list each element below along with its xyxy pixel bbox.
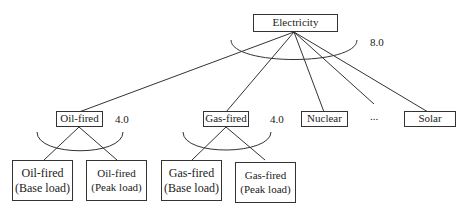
elasticity-root: 8.0	[370, 36, 384, 48]
leaf-gas-base: Gas-fired (Base load)	[161, 160, 222, 201]
leaf-line2: (Base load)	[15, 181, 70, 196]
leaf-oil-base: Oil-fired (Base load)	[12, 160, 73, 201]
node-label: Gas-fired	[205, 112, 247, 126]
leaf-gas-peak: Gas-fired (Peak load)	[235, 162, 296, 203]
leaf-line1: Oil-fired	[97, 167, 135, 181]
leaf-oil-peak: Oil-fired (Peak load)	[86, 160, 147, 201]
node-label: Nuclear	[307, 112, 342, 126]
node-gas-fired: Gas-fired	[203, 111, 249, 127]
leaf-line2: (Peak load)	[240, 183, 290, 197]
node-label: Solar	[418, 112, 441, 126]
node-ellipsis: ...	[370, 110, 378, 122]
node-label: Oil-fired	[60, 112, 98, 126]
elasticity-oil-fired: 4.0	[115, 113, 129, 125]
node-oil-fired: Oil-fired	[56, 111, 103, 127]
elasticity-gas-fired: 4.0	[270, 113, 284, 125]
leaf-line1: Gas-fired	[245, 169, 287, 183]
leaf-line2: (Peak load)	[91, 181, 141, 195]
node-solar: Solar	[404, 111, 456, 127]
leaf-line1: Gas-fired	[169, 166, 214, 181]
node-label: Electricity	[273, 16, 319, 30]
node-nuclear: Nuclear	[301, 111, 348, 127]
leaf-line1: Oil-fired	[22, 166, 64, 181]
node-electricity: Electricity	[253, 14, 338, 32]
leaf-line2: (Base load)	[164, 181, 219, 196]
